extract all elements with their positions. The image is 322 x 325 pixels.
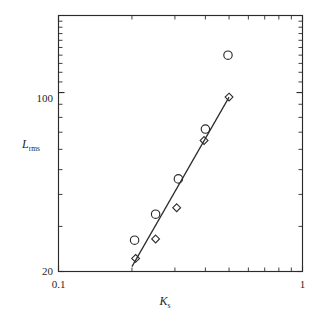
data-point-circle bbox=[151, 210, 159, 218]
data-point-circle bbox=[201, 125, 209, 133]
y-axis-min-label: 20 bbox=[42, 265, 54, 277]
y-axis-mid-label: 100 bbox=[37, 92, 54, 104]
log-log-scatter-chart: 0.1 1 20 100 Lrms Ks bbox=[0, 0, 322, 325]
x-axis-min-label: 0.1 bbox=[52, 278, 66, 290]
data-point-diamond bbox=[152, 235, 160, 243]
x-axis-title: Ks bbox=[159, 294, 171, 310]
figure-container: 0.1 1 20 100 Lrms Ks bbox=[0, 0, 322, 325]
plot-frame bbox=[59, 16, 303, 272]
data-point-circle bbox=[224, 51, 232, 59]
data-point-circle bbox=[130, 236, 138, 244]
y-axis-title: Lrms bbox=[21, 137, 40, 153]
x-axis-title-subscript: s bbox=[168, 301, 171, 310]
data-point-diamond bbox=[225, 93, 233, 101]
y-axis-ticks bbox=[59, 16, 303, 272]
x-axis-ticks bbox=[59, 16, 303, 272]
data-markers bbox=[130, 51, 233, 262]
data-point-diamond bbox=[173, 204, 181, 212]
data-point-circle bbox=[174, 175, 182, 183]
x-axis-max-label: 1 bbox=[300, 278, 306, 290]
y-axis-title-subscript: rms bbox=[29, 144, 40, 153]
